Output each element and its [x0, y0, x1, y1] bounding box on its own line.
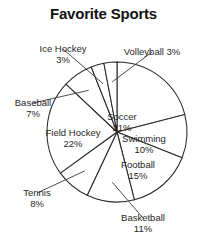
pie-label-percent: 22% [46, 139, 101, 150]
pie-label-name: Baseball [15, 98, 51, 109]
pie-label-percent: 15% [121, 171, 155, 182]
pie-label-percent: 7% [15, 109, 51, 120]
pie-label-volleyball: Volleyball 3% [124, 47, 181, 58]
pie-label-name: Soccer [107, 112, 137, 123]
pie-label-ice-hockey: Ice Hockey3% [40, 44, 87, 65]
pie-label-football: Football15% [121, 160, 155, 181]
pie-label-text: Volleyball 3% [124, 46, 181, 57]
pie-label-basketball: Basketball11% [121, 213, 165, 234]
pie-label-baseball: Baseball7% [15, 98, 51, 119]
pie-label-name: Tennis [23, 188, 50, 199]
pie-chart-svg [0, 0, 207, 247]
pie-label-swimming: Swimming10% [122, 134, 166, 155]
pie-label-percent: 11% [121, 224, 165, 235]
pie-label-name: Swimming [122, 134, 166, 145]
pie-chart-figure: Favorite Sports Soccer21%Swimming10%Foot… [0, 0, 207, 247]
pie-label-soccer: Soccer21% [107, 112, 137, 133]
pie-label-name: Basketball [121, 213, 165, 224]
pie-label-tennis: Tennis8% [23, 188, 50, 209]
pie-label-percent: 10% [122, 145, 166, 156]
pie-label-percent: 21% [107, 123, 137, 134]
pie-label-field-hockey: Field Hockey22% [46, 128, 101, 149]
pie-label-name: Football [121, 160, 155, 171]
pie-label-name: Field Hockey [46, 128, 101, 139]
pie-label-percent: 3% [40, 55, 87, 66]
pie-label-percent: 8% [23, 199, 50, 210]
pie-label-name: Ice Hockey [40, 44, 87, 55]
